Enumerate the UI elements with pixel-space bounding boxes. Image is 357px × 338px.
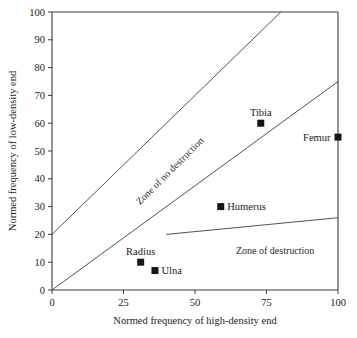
- data-point-ulna: [151, 267, 158, 274]
- scatter-chart: 01020304050607080901000255075100 Zone of…: [0, 0, 357, 338]
- data-point-label-humerus: Humerus: [227, 201, 265, 212]
- data-point-radius: [137, 259, 144, 266]
- x-tick-label: 100: [330, 297, 346, 308]
- y-tick-label: 100: [29, 7, 45, 18]
- middle-boundary: [52, 82, 338, 291]
- annotations-group: Zone of no destructionZone of destructio…: [134, 135, 315, 256]
- data-point-label-femur: Femur: [303, 132, 331, 143]
- y-tick-label: 70: [35, 90, 46, 101]
- data-point-label-tibia: Tibia: [250, 107, 272, 118]
- data-point-femur: [335, 134, 342, 141]
- lower-boundary: [166, 218, 338, 235]
- y-axis-title: Normed frequency of low-density end: [7, 70, 18, 231]
- figure-container: 01020304050607080901000255075100 Zone of…: [0, 0, 357, 338]
- y-tick-label: 50: [35, 146, 46, 157]
- data-point-tibia: [257, 120, 264, 127]
- y-tick-label: 0: [40, 285, 45, 296]
- y-tick-label: 10: [35, 257, 46, 268]
- y-tick-label: 20: [35, 229, 46, 240]
- y-tick-label: 90: [35, 34, 46, 45]
- y-tick-label: 60: [35, 118, 46, 129]
- zone-of-destruction: Zone of destruction: [236, 245, 314, 256]
- y-tick-label: 30: [35, 201, 46, 212]
- data-point-humerus: [217, 203, 224, 210]
- data-point-label-radius: Radius: [126, 246, 155, 257]
- data-point-label-ulna: Ulna: [161, 265, 182, 276]
- zone-of-no-destruction: Zone of no destruction: [134, 135, 206, 207]
- y-tick-label: 40: [35, 173, 46, 184]
- y-tick-label: 80: [35, 62, 46, 73]
- x-tick-label: 75: [261, 297, 272, 308]
- x-tick-label: 0: [49, 297, 54, 308]
- x-axis-title: Normed frequency of high-density end: [113, 315, 277, 326]
- x-tick-label: 25: [118, 297, 129, 308]
- x-tick-label: 50: [190, 297, 201, 308]
